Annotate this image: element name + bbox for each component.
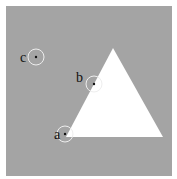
marker-dot xyxy=(64,133,66,135)
diagram: abc xyxy=(0,0,177,179)
marker-dot xyxy=(93,83,95,85)
marker-label: b xyxy=(76,70,83,85)
marker-dot xyxy=(35,56,37,58)
marker-label: a xyxy=(54,127,61,142)
gray-panel xyxy=(6,6,172,176)
marker-label: c xyxy=(20,50,26,65)
